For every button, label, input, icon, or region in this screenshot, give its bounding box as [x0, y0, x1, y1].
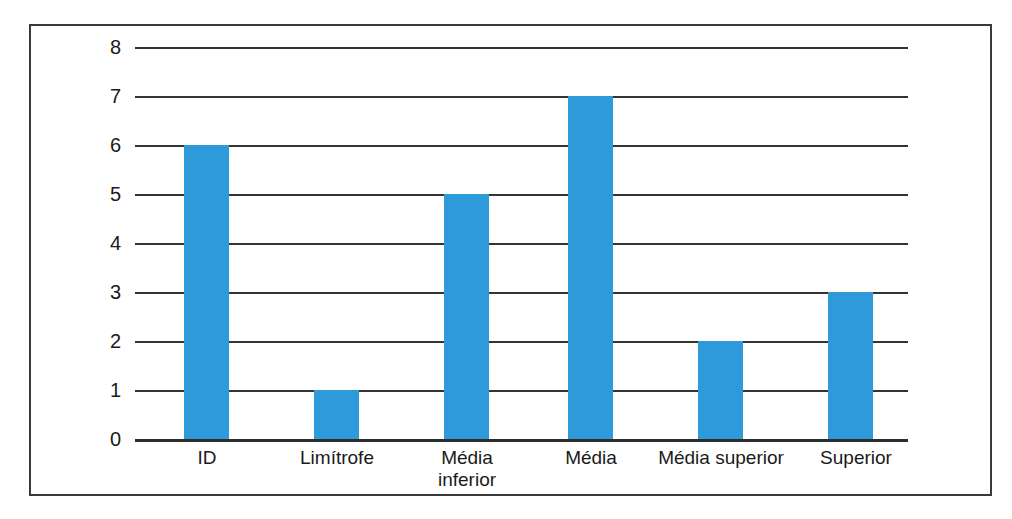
ytick-label-7: 7 — [87, 86, 121, 106]
ytick-label-2: 2 — [87, 331, 121, 351]
xtick-label-superior: Superior — [804, 447, 908, 469]
xtick-label-media: Média — [536, 447, 646, 469]
bar-id[interactable] — [184, 145, 229, 439]
ytick-label-5: 5 — [87, 184, 121, 204]
xtick-label-media-superior: Média superior — [641, 447, 801, 469]
chart-frame: 8 7 6 5 4 3 2 1 0 ID Limítrofe Média inf… — [29, 24, 992, 496]
xtick-label-limitrofe: Limítrofe — [274, 447, 400, 469]
plot-area: 8 7 6 5 4 3 2 1 0 ID Limítrofe Média inf… — [31, 26, 990, 494]
bar-superior[interactable] — [828, 292, 873, 439]
ytick-label-1: 1 — [87, 380, 121, 400]
ytick-label-3: 3 — [87, 282, 121, 302]
bar-media-inferior[interactable] — [444, 194, 489, 439]
ytick-label-0: 0 — [87, 429, 121, 449]
bar-media[interactable] — [568, 96, 613, 439]
bar-media-superior[interactable] — [698, 341, 743, 439]
gridline-5 — [135, 194, 908, 196]
ytick-label-8: 8 — [87, 37, 121, 57]
gridline-6 — [135, 145, 908, 147]
ytick-label-4: 4 — [87, 233, 121, 253]
xtick-label-media-inferior: Média inferior — [412, 447, 522, 491]
gridline-2 — [135, 341, 908, 343]
axis-baseline — [135, 439, 908, 442]
bar-limitrofe[interactable] — [314, 390, 359, 439]
xtick-label-id: ID — [152, 447, 262, 469]
gridline-1 — [135, 390, 908, 392]
gridline-3 — [135, 292, 908, 294]
ytick-label-6: 6 — [87, 135, 121, 155]
gridline-8 — [135, 47, 908, 49]
gridline-7 — [135, 96, 908, 98]
gridline-4 — [135, 243, 908, 245]
